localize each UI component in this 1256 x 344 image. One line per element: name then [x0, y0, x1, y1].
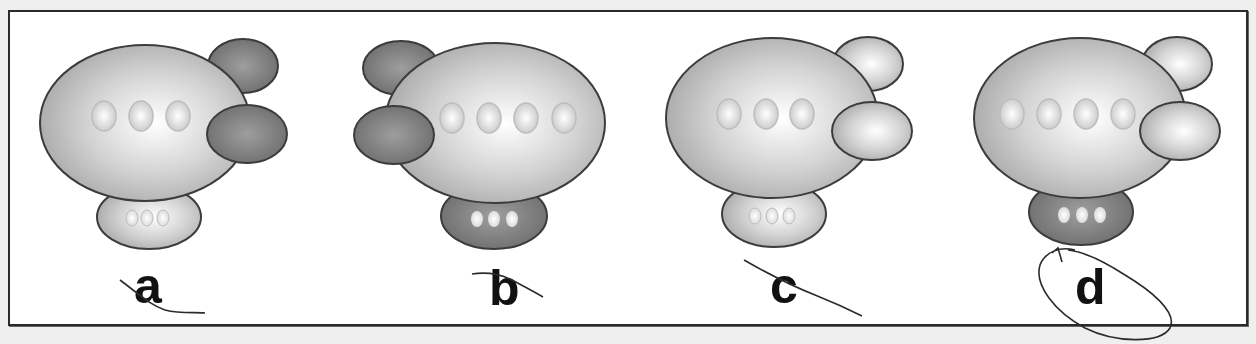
gondola-windows: [1058, 207, 1106, 223]
pencil-strike-c: [744, 260, 862, 316]
rear-fin-bottom: [832, 102, 912, 160]
rear-fin-bottom: [207, 105, 287, 163]
option-label-a: a: [134, 258, 163, 314]
gondola-windows: [749, 208, 795, 224]
option-label-b: b: [489, 260, 520, 316]
gondola-windows: [126, 210, 169, 226]
pencil-strike-a: [120, 280, 205, 313]
option-d[interactable]: d: [974, 37, 1220, 340]
option-a[interactable]: a: [40, 39, 287, 314]
blimp-options-figure: a b: [0, 0, 1256, 344]
option-label-d: d: [1075, 259, 1106, 315]
gondola-windows: [471, 211, 518, 227]
body-windows: [717, 99, 814, 129]
rear-fin-bottom: [354, 106, 434, 164]
option-c[interactable]: c: [666, 37, 912, 316]
rear-fin-bottom: [1140, 102, 1220, 160]
option-b[interactable]: b: [354, 41, 605, 316]
body-windows: [92, 101, 190, 131]
